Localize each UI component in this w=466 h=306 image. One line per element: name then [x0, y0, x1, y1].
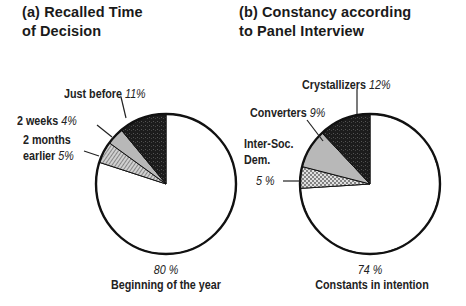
- label-inter-soc-pct: 5 %: [256, 173, 275, 189]
- label-constants: Constants in intention: [299, 277, 445, 293]
- label-text: Crystallizers: [302, 78, 366, 92]
- label-beginning: Beginning of the year: [97, 277, 235, 293]
- label-inter-soc-dem: Inter-Soc. Dem.: [244, 136, 294, 168]
- label-just-before: Just before 11%: [64, 86, 146, 102]
- label-percent: 11%: [125, 87, 146, 101]
- label-2-weeks: 2 weeks 4%: [17, 113, 77, 129]
- label-converters: Converters 9%: [250, 105, 325, 121]
- label-text: Dem.: [244, 152, 294, 168]
- label-percent: 9%: [310, 106, 326, 120]
- label-text: Inter-Soc.: [244, 136, 294, 152]
- label-percent: 12%: [369, 78, 391, 92]
- label-percent: 4%: [61, 114, 77, 128]
- label-text: Converters: [250, 106, 307, 120]
- label-percent: 5%: [58, 149, 74, 163]
- label-text: Just before: [64, 87, 122, 101]
- pie-chart-b: [300, 114, 440, 254]
- label-constants-pct: 74 %: [310, 262, 430, 278]
- label-percent: 74 %: [358, 263, 383, 277]
- label-percent: 80 %: [154, 263, 179, 277]
- label-text: 2 months: [23, 132, 74, 148]
- label-text: Constants in intention: [315, 278, 428, 292]
- label-crystallizers: Crystallizers 12%: [302, 77, 390, 93]
- label-text: Beginning of the year: [111, 278, 221, 292]
- label-2-months: 2 months earlier 5%: [23, 132, 74, 164]
- label-text: 2 weeks: [17, 114, 58, 128]
- pie-chart-a: [96, 114, 236, 254]
- label-beginning-pct: 80 %: [106, 262, 226, 278]
- label-percent: 5 %: [256, 174, 275, 188]
- label-text: earlier: [23, 149, 55, 163]
